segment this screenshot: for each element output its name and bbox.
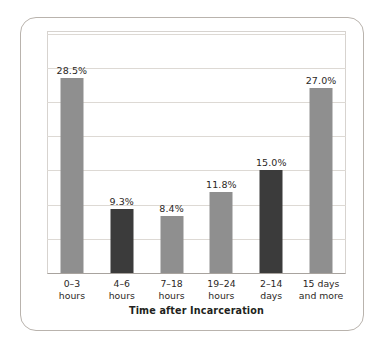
bar-value-label: 9.3% xyxy=(109,196,134,207)
x-tick-line-1: 4–6 xyxy=(114,278,130,289)
bar-slot: 9.3% xyxy=(97,31,147,273)
x-axis-tick-label: 15 daysand more xyxy=(291,278,351,301)
bar[interactable] xyxy=(310,88,333,273)
bar-value-label: 28.5% xyxy=(57,65,88,76)
bar-value-label: 27.0% xyxy=(306,75,337,86)
x-tick-line-1: 7–18 xyxy=(160,278,182,289)
x-tick-line-1: 2–14 xyxy=(260,278,282,289)
x-axis-title: Time after Incarceration xyxy=(47,305,346,316)
bar-slot: 15.0% xyxy=(246,31,296,273)
bar[interactable] xyxy=(260,170,283,273)
bar-slot: 8.4% xyxy=(147,31,197,273)
bar-value-label: 11.8% xyxy=(206,179,237,190)
bar-value-label: 15.0% xyxy=(256,157,287,168)
y-axis-title-container: Percentage of Inmate Suicides xyxy=(28,31,42,274)
x-tick-line-1: 19–24 xyxy=(207,278,235,289)
bar[interactable] xyxy=(60,78,83,273)
bar-value-label: 8.4% xyxy=(159,203,184,214)
x-tick-line-1: 15 days xyxy=(303,278,340,289)
bar[interactable] xyxy=(110,209,133,273)
bar-slot: 28.5% xyxy=(47,31,97,273)
bar[interactable] xyxy=(210,192,233,273)
bar-slot: 27.0% xyxy=(296,31,346,273)
x-tick-line-2: and more xyxy=(291,290,351,302)
bar-series: 28.5%9.3%8.4%11.8%15.0%27.0% xyxy=(47,31,346,273)
bar-slot: 11.8% xyxy=(197,31,247,273)
x-tick-line-1: 0–3 xyxy=(64,278,80,289)
chart-figure: Percentage of Inmate Suicides 28.5%9.3%8… xyxy=(0,0,384,351)
bar[interactable] xyxy=(160,216,183,273)
plot-region: 28.5%9.3%8.4%11.8%15.0%27.0% xyxy=(47,31,346,274)
